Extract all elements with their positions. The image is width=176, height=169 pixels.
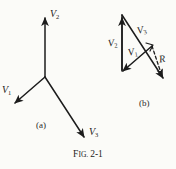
label-a-v1: V1 — [2, 85, 11, 95]
label-a-v2: V2 — [50, 9, 59, 19]
label-b-v3: V3 — [136, 24, 147, 36]
panel-b-label: (b) — [139, 99, 150, 108]
panel-a-label: (a) — [36, 121, 46, 130]
vector-a-v1-line — [15, 77, 45, 103]
label-b-v1: V1 — [127, 46, 138, 57]
vector-diagram-canvas — [0, 0, 176, 169]
panel-a-vectors — [15, 18, 84, 137]
figure-2-1: V2 V1 V3 (a) V2 V3 V1 R (b) FIG.2-1 — [0, 0, 176, 169]
vector-a-v3-line — [45, 77, 84, 137]
figure-caption-word: FIG. — [73, 149, 88, 159]
figure-caption: FIG.2-1 — [0, 150, 176, 160]
label-a-v3: V3 — [89, 127, 98, 137]
label-b-v2: V2 — [108, 38, 118, 49]
figure-caption-number: 2-1 — [90, 149, 103, 159]
label-b-r: R — [158, 54, 165, 65]
